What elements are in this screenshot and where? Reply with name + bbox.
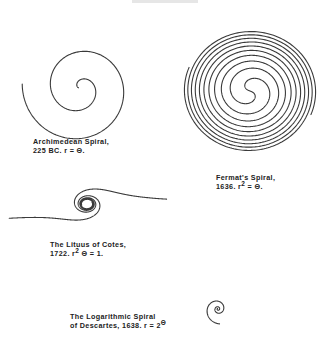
caption-equation: of Descartes, 1638. r = 2Θ <box>70 321 166 330</box>
caption-title: Fermat's Spiral, <box>216 173 275 182</box>
logarithmic-spiral-curve <box>207 301 224 324</box>
logarithmic-caption: The Logarithmic Spiral of Descartes, 163… <box>70 312 166 330</box>
archimedean-caption: Archimedean Spiral, 225 BC. r = Θ. <box>33 137 109 155</box>
caption-equation: 1722. r2 Θ = 1. <box>50 249 126 258</box>
fermat-caption: Fermat's Spiral, 1636. r2 = Θ. <box>216 173 275 191</box>
archimedean-spiral-curve <box>22 51 123 138</box>
caption-equation: 225 BC. r = Θ. <box>33 146 109 155</box>
fermat-spiral-curve <box>184 32 315 151</box>
lituus-spiral-curve <box>9 189 166 220</box>
caption-title: The Logarithmic Spiral <box>70 312 166 321</box>
lituus-caption: The Lituus of Cotes, 1722. r2 Θ = 1. <box>50 240 126 258</box>
caption-equation: 1636. r2 = Θ. <box>216 182 275 191</box>
caption-title: The Lituus of Cotes, <box>50 240 126 249</box>
caption-title: Archimedean Spiral, <box>33 137 109 146</box>
